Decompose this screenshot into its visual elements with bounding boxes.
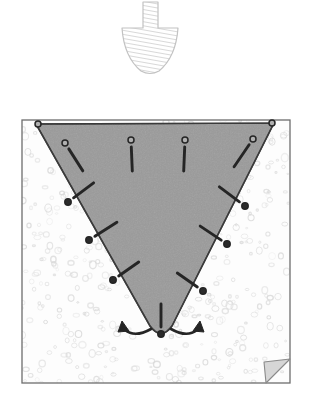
node-marker-open — [128, 137, 134, 143]
node-marker-open — [182, 137, 188, 143]
node-marker-filled — [158, 331, 164, 337]
node-marker-filled — [86, 237, 92, 243]
displacement-vector — [184, 147, 185, 171]
applied-load-arrow-icon — [122, 2, 178, 74]
applied-load-arrow-group — [122, 2, 178, 74]
soil-wedge-diagram — [0, 0, 313, 403]
node-marker-open — [269, 120, 275, 126]
node-marker-filled — [224, 241, 230, 247]
displacement-marker — [269, 120, 275, 126]
node-marker-filled — [200, 288, 206, 294]
figure-root — [0, 0, 313, 403]
displacement-marker — [35, 121, 41, 127]
node-marker-filled — [65, 199, 71, 205]
node-marker-open — [35, 121, 41, 127]
node-marker-open — [250, 136, 256, 142]
node-marker-open — [62, 140, 68, 146]
node-marker-filled — [110, 277, 116, 283]
displacement-vector — [131, 147, 132, 171]
node-marker-filled — [242, 203, 248, 209]
